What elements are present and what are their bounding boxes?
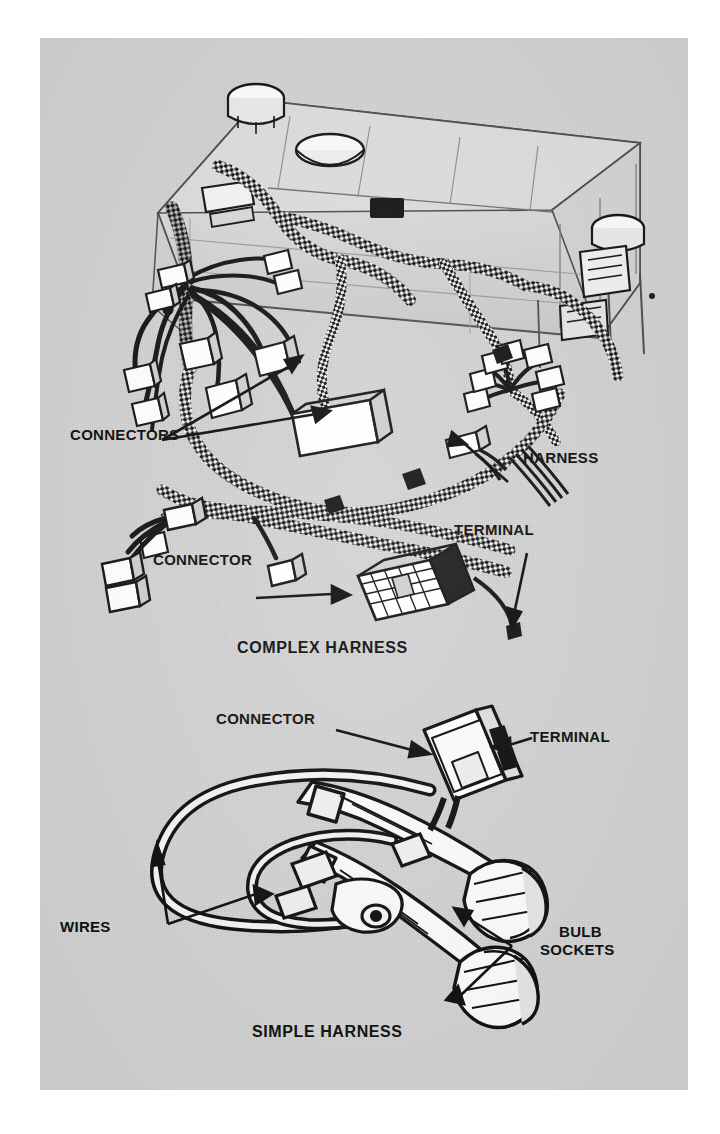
callout-label-wires: WIRES — [60, 918, 111, 935]
callout-label-connectors: CONNECTORS — [70, 426, 179, 443]
callout-label-terminal-simple: TERMINAL — [530, 728, 610, 745]
figure-caption-simple-harness: SIMPLE HARNESS — [252, 1023, 403, 1041]
callout-label-connector-simple: CONNECTOR — [216, 710, 315, 727]
callout-label-connector-complex: CONNECTOR — [153, 551, 252, 568]
illustration-page: CONNECTORS HARNESS CONNECTOR TERMINAL CO… — [0, 0, 720, 1134]
callout-label-terminal-complex: TERMINAL — [454, 521, 534, 538]
scanned-sheet: CONNECTORS HARNESS CONNECTOR TERMINAL CO… — [40, 38, 688, 1090]
callout-label-harness: HARNESS — [523, 449, 598, 466]
callout-label-bulb: BULB — [559, 923, 602, 940]
figure-caption-complex-harness: COMPLEX HARNESS — [237, 639, 408, 657]
callout-label-sockets: SOCKETS — [540, 941, 615, 958]
